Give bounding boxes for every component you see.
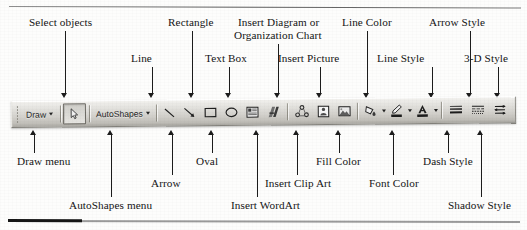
clip-art-icon	[316, 104, 331, 119]
leader-line-arrow-style	[470, 31, 471, 93]
insert-diagram-button[interactable]	[291, 101, 313, 122]
diagram-icon	[294, 104, 310, 119]
toolbar-separator	[156, 105, 157, 122]
callout-label-insert-diagram-line2: Organization Chart	[234, 29, 322, 41]
callout-label-oval: Oval	[196, 155, 218, 167]
leader-line-oval	[212, 135, 213, 153]
callout-label-insert-clip-art: Insert Clip Art	[265, 177, 331, 189]
insert-picture-button[interactable]	[334, 101, 355, 122]
callout-label-insert-wordart: Insert WordArt	[231, 199, 300, 211]
callout-label-insert-diagram-line1: Insert Diagram or	[238, 16, 319, 28]
line-color-icon	[389, 103, 404, 119]
draw-menu-label: Draw	[26, 109, 46, 119]
callout-label-dash-style: Dash Style	[423, 155, 473, 167]
autoshapes-menu-label: AutoShapes	[96, 108, 143, 118]
callout-label-draw-menu: Draw menu	[17, 155, 70, 167]
chevron-down-icon	[146, 112, 150, 115]
font-color-icon	[415, 102, 430, 118]
toolbar-separator	[88, 105, 89, 122]
select-objects-button[interactable]	[63, 103, 86, 124]
toolbar-separator	[287, 103, 288, 120]
line-color-button[interactable]	[387, 100, 407, 121]
picture-icon	[337, 104, 352, 119]
font-color-dropdown-chevron-down-icon[interactable]	[434, 109, 438, 112]
callout-label-line: Line	[131, 52, 152, 64]
text-box-button[interactable]	[242, 102, 263, 123]
drawing-toolbar-image: Draw AutoShapes	[11, 96, 516, 128]
callout-label-arrow-style: Arrow Style	[429, 16, 485, 28]
callout-label-insert-picture: Insert Picture	[278, 52, 339, 64]
toolbar-grip-handle[interactable]	[14, 105, 21, 124]
callout-label-font-color: Font Color	[369, 177, 419, 189]
leader-line-arrow	[172, 135, 173, 175]
callout-label-select-objects: Select objects	[29, 16, 92, 28]
callout-label-fill-color: Fill Color	[316, 155, 361, 167]
leader-line-rectangle	[192, 31, 193, 93]
cursor-arrow-icon	[68, 107, 81, 120]
leader-line-line	[152, 67, 153, 93]
arrowhead-down-rectangle	[188, 93, 194, 98]
text-box-icon	[245, 105, 260, 120]
arrowhead-down-insert-diagram	[274, 93, 280, 98]
rectangle-icon	[203, 105, 218, 120]
callout-label-line-style: Line Style	[377, 52, 424, 64]
line-style-button[interactable]	[445, 100, 467, 121]
fill-color-icon	[363, 103, 378, 118]
fill-color-button[interactable]	[361, 100, 381, 121]
leader-line-shadow-style	[481, 135, 482, 197]
shadow-style-button[interactable]	[511, 99, 516, 120]
oval-icon	[224, 105, 239, 120]
leader-line-3d-style	[498, 67, 499, 93]
leader-line-font-color	[393, 135, 394, 175]
leader-line-text-box	[229, 67, 230, 93]
shadow-style-icon	[514, 102, 516, 117]
leader-line-insert-diagram	[278, 44, 279, 93]
rectangle-button[interactable]	[200, 102, 221, 123]
arrowhead-down-text-box	[225, 93, 231, 98]
leader-line-line-color	[367, 31, 368, 93]
dash-style-icon	[470, 102, 486, 117]
toolbar-separator	[441, 102, 442, 119]
toolbar-separator	[59, 106, 60, 123]
callout-label-autoshapes-menu: AutoShapes menu	[69, 199, 152, 211]
draw-menu-button[interactable]: Draw	[22, 104, 57, 125]
callout-label-rectangle: Rectangle	[168, 16, 214, 28]
callout-label-arrow: Arrow	[151, 177, 181, 189]
arrowhead-down-select-objects	[61, 93, 67, 98]
arrow-button[interactable]	[180, 102, 200, 123]
callout-label-text-box: Text Box	[205, 52, 247, 64]
dash-style-button[interactable]	[467, 99, 489, 120]
arrow-style-icon	[492, 102, 508, 117]
line-color-dropdown-chevron-down-icon[interactable]	[408, 109, 412, 112]
arrowhead-down-line	[148, 93, 154, 98]
wordart-icon	[266, 104, 282, 119]
arrow-style-button[interactable]	[489, 99, 511, 120]
leader-line-fill-color	[339, 135, 340, 153]
oval-button[interactable]	[221, 102, 242, 123]
arrow-icon	[182, 105, 197, 120]
autoshapes-menu-button[interactable]: AutoShapes	[92, 103, 154, 125]
callout-label-line-color: Line Color	[342, 16, 392, 28]
insert-clip-art-button[interactable]	[313, 101, 334, 122]
chevron-down-icon	[49, 113, 53, 116]
line-button[interactable]	[160, 102, 180, 123]
leader-line-insert-clip-art	[297, 135, 298, 175]
fill-color-dropdown-chevron-down-icon[interactable]	[382, 109, 386, 112]
leader-line-autoshapes-menu	[111, 135, 112, 197]
callout-label-shadow-style: Shadow Style	[448, 199, 511, 211]
leader-line-insert-wordart	[257, 135, 258, 197]
font-color-button[interactable]	[413, 100, 433, 121]
line-style-icon	[448, 103, 464, 118]
leader-line-insert-picture	[320, 67, 321, 93]
drawing-toolbar[interactable]: Draw AutoShapes	[11, 96, 516, 128]
figure-bottom-rule-accent	[8, 219, 82, 222]
leader-line-dash-style	[448, 135, 449, 153]
leader-line-line-style	[432, 67, 433, 93]
leader-line-draw-menu	[34, 135, 35, 153]
toolbar-separator	[357, 103, 358, 120]
leader-line-select-objects	[65, 31, 66, 93]
insert-wordart-button[interactable]	[263, 101, 285, 122]
line-icon	[162, 105, 177, 120]
